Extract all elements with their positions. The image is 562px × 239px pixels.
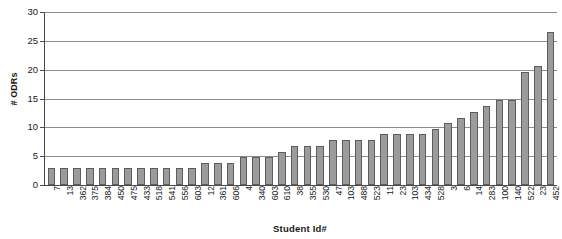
x-axis-tick-label-text: 434: [424, 186, 433, 220]
x-axis-tick-label-text: 375: [91, 186, 100, 220]
x-axis-tick-label-text: 528: [437, 186, 446, 220]
x-axis-tick-label-text: 488: [360, 186, 369, 220]
x-axis-tick-label-text: 103: [347, 186, 356, 220]
x-axis-tick-label-text: 603: [194, 186, 203, 220]
x-axis-tick-label-text: 452: [552, 186, 561, 220]
y-axis-tick-label: 30: [16, 7, 38, 17]
bar: [304, 146, 311, 185]
x-axis-title: Student Id#: [44, 223, 556, 234]
x-axis-tick-label-text: 355: [309, 186, 318, 220]
bar: [176, 168, 183, 185]
bar: [188, 168, 195, 185]
x-axis-tick-label-text: 340: [258, 186, 267, 220]
x-axis-tick-labels: 7133623753844504754335185415566031236160…: [44, 186, 556, 220]
bar: [444, 123, 451, 185]
bar: [355, 140, 362, 185]
x-axis-tick-label: 452: [554, 186, 562, 220]
bar: [214, 163, 221, 185]
bar: [470, 112, 477, 185]
x-axis-tick-label-text: 556: [181, 186, 190, 220]
x-axis-tick-label-text: 12: [207, 186, 216, 220]
bar: [521, 72, 528, 185]
x-axis-tick-label-text: 11: [386, 186, 395, 220]
bar: [508, 100, 515, 185]
bar: [432, 129, 439, 186]
x-axis-tick-label-text: 103: [411, 186, 420, 220]
x-axis-tick-label-text: 47: [335, 186, 344, 220]
bar-chart: # ODRs 051015202530 71336237538445047543…: [0, 0, 562, 239]
x-axis-tick-label-text: 140: [514, 186, 523, 220]
bar: [252, 157, 259, 185]
bar: [393, 134, 400, 185]
bar: [265, 157, 272, 185]
bar: [60, 168, 67, 185]
x-axis-tick-label-text: 518: [155, 186, 164, 220]
bar: [112, 168, 119, 185]
x-axis-tick-label-text: 361: [219, 186, 228, 220]
x-axis-tick-label-text: 530: [322, 186, 331, 220]
x-axis-tick-label-text: 23: [539, 186, 548, 220]
y-axis-tick-label: 10: [16, 123, 38, 133]
x-axis-tick-label-text: 523: [373, 186, 382, 220]
bar: [124, 168, 131, 185]
x-axis-tick-label-text: 3: [450, 186, 459, 220]
bar: [547, 32, 554, 185]
bar: [137, 168, 144, 185]
bars-layer: [45, 12, 557, 185]
x-axis-tick-label-text: 362: [79, 186, 88, 220]
y-axis-tick-label: 20: [16, 65, 38, 75]
bar: [291, 146, 298, 185]
y-axis-tick-labels: 051015202530: [16, 12, 38, 185]
y-axis-tick-label: 15: [16, 94, 38, 104]
y-axis-tick-label: 0: [16, 180, 38, 190]
bar: [86, 168, 93, 185]
bar: [316, 146, 323, 185]
bar: [329, 140, 336, 185]
x-axis-tick-label-text: 6: [463, 186, 472, 220]
bar: [368, 140, 375, 185]
x-axis-tick-label-text: 541: [168, 186, 177, 220]
x-axis-tick-label-text: 4: [245, 186, 254, 220]
x-axis-tick-label-text: 384: [104, 186, 113, 220]
x-axis-tick-label-text: 13: [66, 186, 75, 220]
bar: [496, 100, 503, 185]
x-axis-tick-label-text: 433: [143, 186, 152, 220]
bar: [48, 168, 55, 185]
bar: [457, 118, 464, 185]
bar: [73, 168, 80, 185]
x-axis-tick-label-text: 7: [53, 186, 62, 220]
x-axis-tick-label-text: 475: [130, 186, 139, 220]
x-axis-tick-label-text: 606: [232, 186, 241, 220]
bar: [342, 140, 349, 185]
x-axis-tick-label-text: 283: [488, 186, 497, 220]
y-axis-tick-label: 25: [16, 36, 38, 46]
bar: [240, 157, 247, 185]
bar: [380, 134, 387, 185]
x-axis-tick-label-text: 14: [475, 186, 484, 220]
bar: [419, 134, 426, 185]
bar: [163, 168, 170, 185]
x-axis-tick-label-text: 603: [271, 186, 280, 220]
x-axis-tick-label-text: 450: [117, 186, 126, 220]
bar: [227, 163, 234, 185]
x-axis-tick-label-text: 23: [399, 186, 408, 220]
x-axis-tick-label-text: 522: [527, 186, 536, 220]
bar: [406, 134, 413, 185]
plot-area: [44, 12, 557, 185]
bar: [483, 106, 490, 185]
bar: [534, 66, 541, 185]
bar: [278, 152, 285, 185]
x-axis-tick-label-text: 38: [296, 186, 305, 220]
bar: [201, 163, 208, 185]
x-axis-tick-label-text: 610: [283, 186, 292, 220]
bar: [150, 168, 157, 185]
x-axis-tick-label-text: 100: [501, 186, 510, 220]
bar: [99, 168, 106, 185]
y-axis-tick-label: 5: [16, 151, 38, 161]
